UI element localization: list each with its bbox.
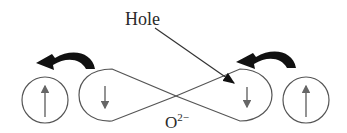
oxygen-label: O2− [165, 111, 189, 132]
hole-label: Hole [125, 9, 160, 29]
exchange-diagram: Hole O2− [0, 0, 347, 133]
right-hop-arrow-icon [236, 52, 296, 69]
right-orbital-lobe [176, 69, 272, 121]
left-hop-arrow-icon [36, 53, 95, 70]
hole-pointer-arrow [155, 28, 234, 83]
right-ion [283, 77, 329, 123]
left-orbital-lobe [79, 69, 176, 121]
left-ion [22, 77, 68, 123]
